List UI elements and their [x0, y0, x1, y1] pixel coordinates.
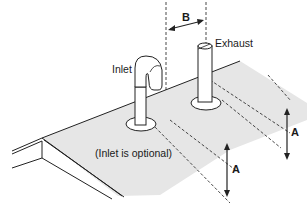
- inlet-label: Inlet: [112, 63, 132, 75]
- diagram-canvas: Inlet Exhaust (Inlet is optional) B A A: [0, 0, 307, 209]
- roof-surface: [42, 61, 307, 196]
- dimension-a-label-right: A: [291, 126, 299, 138]
- vent-clearance-diagram: Inlet Exhaust (Inlet is optional) B A A: [0, 0, 307, 209]
- dimension-a-label-left: A: [232, 163, 240, 175]
- exhaust-label: Exhaust: [215, 37, 253, 49]
- inlet-optional-note: (Inlet is optional): [95, 147, 172, 159]
- dimension-b-label: B: [182, 11, 190, 23]
